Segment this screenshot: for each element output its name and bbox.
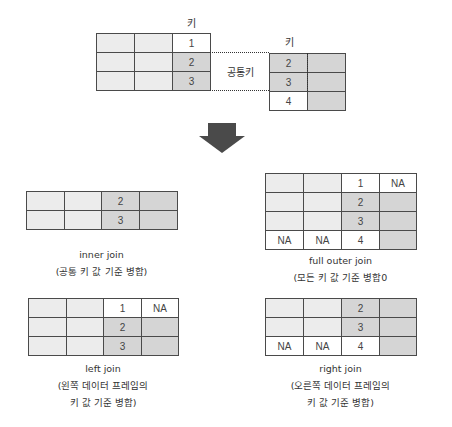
table-cell <box>135 34 173 53</box>
table-row: 3 <box>27 211 178 230</box>
left-join-caption: left join (왼쪽 데이터 프레임의 키 값 기준 병합) <box>28 360 178 411</box>
table-cell <box>65 211 102 230</box>
table-cell-value: 3 <box>270 73 308 92</box>
table-cell <box>29 299 67 318</box>
table-row: 3 <box>266 318 417 337</box>
table-cell <box>380 299 417 318</box>
table-row: 2 <box>27 192 178 211</box>
table-cell-value: 2 <box>342 299 380 318</box>
table-cell-value: 3 <box>342 318 380 337</box>
table-cell <box>29 318 67 337</box>
common-key-label: 공통키 <box>218 64 262 79</box>
down-arrow-icon <box>198 122 246 154</box>
table-cell <box>140 211 178 230</box>
table-cell-value: NA <box>304 231 342 250</box>
table-cell <box>380 212 417 231</box>
right-join-desc-line-2: 키 값 기준 병합) <box>265 394 416 411</box>
table-cell <box>380 337 417 356</box>
right-join-title: right join <box>265 360 416 377</box>
left-key-label: 키 <box>183 15 199 30</box>
table-cell <box>27 192 65 211</box>
table-cell-value: NA <box>304 337 342 356</box>
table-cell <box>380 231 417 250</box>
table-row: 4 <box>270 92 346 111</box>
full-outer-join-table: 1NA23NANA4 <box>265 173 417 250</box>
table-cell <box>97 53 135 72</box>
table-cell <box>304 318 342 337</box>
table-cell <box>266 299 304 318</box>
table-cell <box>27 211 65 230</box>
table-cell-value: 3 <box>104 337 142 356</box>
inner-join-desc-line-1: (공통 키 값 기준 병합) <box>26 263 177 280</box>
table-cell <box>304 193 342 212</box>
table-cell-value: 1 <box>104 299 142 318</box>
table-cell-value: 2 <box>342 193 380 212</box>
table-cell <box>266 212 304 231</box>
common-key-connector-top <box>210 52 269 53</box>
table-cell-value: NA <box>266 337 304 356</box>
table-cell <box>97 72 135 91</box>
table-cell <box>29 337 67 356</box>
table-cell-value: 4 <box>342 337 380 356</box>
table-cell <box>308 73 346 92</box>
right-join-caption: right join (오른쪽 데이터 프레임의 키 값 기준 병합) <box>265 360 416 411</box>
table-cell-value: 3 <box>173 72 211 91</box>
left-join-desc-line-2: 키 값 기준 병합) <box>28 394 178 411</box>
table-cell-value: 4 <box>342 231 380 250</box>
table-cell-value: 3 <box>342 212 380 231</box>
table-cell-value: NA <box>142 299 179 318</box>
right-key-label: 키 <box>281 34 297 49</box>
common-key-connector-bottom <box>210 90 269 91</box>
table-row: 3 <box>266 212 417 231</box>
table-cell <box>304 212 342 231</box>
inner-join-table: 23 <box>26 191 178 230</box>
inner-join-title: inner join <box>26 246 177 263</box>
left-join-table: 1NA23 <box>28 298 179 356</box>
table-row: 2 <box>29 318 179 337</box>
table-cell <box>304 174 342 193</box>
left-source-table: 123 <box>96 33 211 91</box>
table-cell-value: 2 <box>173 53 211 72</box>
table-cell <box>380 193 417 212</box>
table-cell <box>67 337 104 356</box>
right-join-table: 23NANA4 <box>265 298 417 356</box>
table-cell <box>380 318 417 337</box>
table-cell-value: 2 <box>104 318 142 337</box>
table-cell <box>140 192 178 211</box>
right-table-dotted-divider <box>307 53 308 91</box>
table-cell <box>67 299 104 318</box>
table-cell-value: 4 <box>270 92 308 111</box>
table-row: 1NA <box>266 174 417 193</box>
table-cell-value: 1 <box>342 174 380 193</box>
table-cell <box>266 318 304 337</box>
table-cell-value: NA <box>380 174 417 193</box>
table-cell <box>304 299 342 318</box>
full-outer-join-title: full outer join <box>265 252 416 269</box>
full-outer-join-desc-line-1: (모든 키 값 기준 병합0 <box>265 269 416 286</box>
table-cell-value: 2 <box>102 192 140 211</box>
right-join-desc-line-1: (오른쪽 데이터 프레임의 <box>265 377 416 394</box>
table-cell-value: 3 <box>102 211 140 230</box>
left-join-desc-line-1: (왼쪽 데이터 프레임의 <box>28 377 178 394</box>
table-row: 2 <box>266 299 417 318</box>
table-row: 1 <box>97 34 211 53</box>
table-row: 2 <box>97 53 211 72</box>
table-cell <box>135 53 173 72</box>
inner-join-caption: inner join (공통 키 값 기준 병합) <box>26 246 177 280</box>
table-cell <box>142 318 179 337</box>
table-row: NANA4 <box>266 231 417 250</box>
left-join-title: left join <box>28 360 178 377</box>
table-cell <box>142 337 179 356</box>
table-cell <box>135 72 173 91</box>
table-row: 2 <box>266 193 417 212</box>
table-cell-value: 1 <box>173 34 211 53</box>
table-cell <box>308 54 346 73</box>
table-cell-value: 2 <box>270 54 308 73</box>
table-row: 3 <box>29 337 179 356</box>
table-cell <box>308 92 346 111</box>
table-cell <box>67 318 104 337</box>
table-row: 1NA <box>29 299 179 318</box>
full-outer-join-caption: full outer join (모든 키 값 기준 병합0 <box>265 252 416 286</box>
table-cell-value: NA <box>266 231 304 250</box>
table-row: NANA4 <box>266 337 417 356</box>
